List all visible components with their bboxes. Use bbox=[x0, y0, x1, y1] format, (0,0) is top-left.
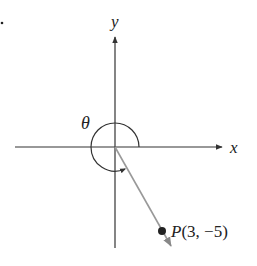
theta-label: θ bbox=[81, 113, 90, 133]
point-p bbox=[158, 227, 166, 235]
angle-diagram: x y θ P(3, −5) bbox=[0, 0, 257, 266]
point-coords: (3, −5) bbox=[181, 222, 227, 241]
y-axis-label: y bbox=[109, 12, 119, 31]
stray-dot bbox=[1, 22, 4, 25]
x-axis-label: x bbox=[229, 138, 238, 157]
point-name: P bbox=[170, 222, 181, 241]
point-label: P(3, −5) bbox=[170, 222, 228, 241]
